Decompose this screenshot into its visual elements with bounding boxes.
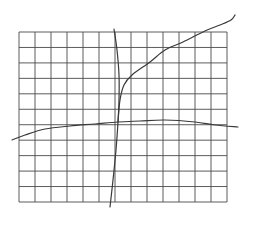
graph-canvas <box>0 0 255 240</box>
background <box>0 0 255 240</box>
